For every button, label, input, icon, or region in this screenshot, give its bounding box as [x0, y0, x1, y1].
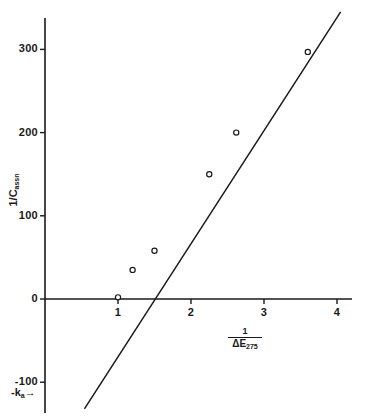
figure-container: -1000100200300 1234 1/Cassn 1 ΔE275 -ka→ [0, 0, 369, 420]
y-tick-label: 200 [19, 126, 38, 138]
negative-k-subscript: a [21, 392, 25, 399]
data-point [207, 172, 212, 177]
annotation-arrow-icon: → [25, 386, 35, 398]
x-tick-label: 3 [249, 306, 279, 318]
y-tick-label: 0 [32, 292, 38, 304]
y-tick-label: 100 [19, 209, 38, 221]
x-axis-title: 1 ΔE275 [214, 327, 276, 350]
delta-e-symbol: ΔE [232, 338, 246, 349]
data-point [130, 267, 135, 272]
y-axis-title: 1/Cassn [7, 160, 19, 220]
x-axis-title-denominator: ΔE275 [214, 339, 276, 350]
x-tick-label: 4 [322, 306, 352, 318]
x-tick-label: 2 [176, 306, 206, 318]
data-point-group [115, 49, 310, 300]
negative-k-annotation: -ka→ [11, 386, 35, 398]
y-axis-title-main: 1/C [7, 189, 19, 206]
negative-k-text: -k [11, 386, 21, 398]
fit-line [84, 12, 340, 409]
x-axis-title-subscript: 275 [246, 343, 258, 350]
y-tick-label: 300 [19, 42, 38, 54]
plot-svg [0, 0, 369, 420]
x-axis-title-numerator: 1 [214, 327, 276, 336]
x-tick-label: 1 [103, 306, 133, 318]
data-point [115, 295, 120, 300]
data-point [305, 49, 310, 54]
data-point [234, 130, 239, 135]
data-point [152, 248, 157, 253]
y-axis-title-subscript: assn [13, 173, 20, 189]
